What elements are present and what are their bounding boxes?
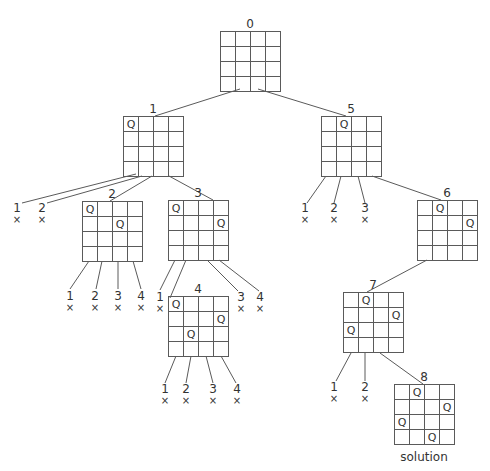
failed-branch: 4× xyxy=(221,356,241,406)
branch-label: 1 xyxy=(13,201,21,215)
queen-icon: Q xyxy=(443,401,452,414)
branch-line xyxy=(358,176,365,203)
failed-branch: 1× xyxy=(66,261,89,313)
fail-mark-icon: × xyxy=(209,395,217,406)
branch-line xyxy=(160,260,175,290)
branch-label: 3 xyxy=(114,289,122,303)
branch-line xyxy=(47,176,142,203)
queen-icon: Q xyxy=(347,324,356,337)
branch-label: 3 xyxy=(361,201,369,215)
node-label: 8 xyxy=(420,370,428,384)
solution-caption: solution xyxy=(400,450,448,464)
fail-mark-icon: × xyxy=(361,393,369,404)
branch-line xyxy=(165,356,176,383)
fail-mark-icon: × xyxy=(256,303,264,314)
failed-branch: 1× xyxy=(161,356,176,406)
fail-mark-icon: × xyxy=(161,395,169,406)
node-label: 0 xyxy=(246,17,254,31)
node-label: 2 xyxy=(108,187,116,201)
board-node-5: 5Q xyxy=(322,102,382,177)
branch-line xyxy=(186,356,191,383)
failed-branch: 4× xyxy=(133,261,145,313)
branch-label: 4 xyxy=(256,290,264,304)
fail-mark-icon: × xyxy=(361,214,369,225)
chess-board-grid xyxy=(344,293,404,353)
branch-line xyxy=(219,260,259,291)
branch-label: 2 xyxy=(91,289,99,303)
branch-line xyxy=(70,261,89,289)
chess-board-grid xyxy=(221,32,281,92)
fail-mark-icon: × xyxy=(114,302,122,313)
board-node-7: 7QQQ xyxy=(344,278,404,353)
failed-branch: 2× xyxy=(91,261,102,313)
branch-label: 2 xyxy=(182,382,190,396)
branch-label: 2 xyxy=(38,201,46,215)
tree-canvas: 1×2×1×2×3×4×1×3×4×1×2×3×4×1×2×3×1×2× 01Q… xyxy=(0,0,490,471)
fail-mark-icon: × xyxy=(66,302,74,313)
failed-branch: 2× xyxy=(182,356,191,406)
failed-branch: 2× xyxy=(330,176,341,225)
failed-branch: 3× xyxy=(207,260,245,314)
fail-mark-icon: × xyxy=(13,214,21,225)
branch-line xyxy=(336,353,351,381)
tree-edge-0-to-5 xyxy=(258,89,346,116)
search-tree-diagram: 1×2×1×2×3×4×1×3×4×1×2×3×4×1×2×3×1×2× 01Q… xyxy=(0,0,490,471)
queen-icon: Q xyxy=(362,294,371,307)
failed-branch: 3× xyxy=(114,261,122,313)
fail-mark-icon: × xyxy=(301,214,309,225)
board-node-2: 2QQ xyxy=(83,187,143,262)
fail-mark-icon: × xyxy=(156,303,164,314)
tree-edge-0-to-1 xyxy=(155,89,240,116)
branch-line xyxy=(221,356,236,383)
branch-label: 2 xyxy=(361,380,369,394)
failed-branches: 1×2×1×2×3×4×1×3×4×1×2×3×4×1×2×3×1×2× xyxy=(13,174,369,406)
node-label: 4 xyxy=(194,282,202,296)
queen-icon: Q xyxy=(340,118,349,131)
queen-icon: Q xyxy=(413,386,422,399)
queen-icon: Q xyxy=(217,217,226,230)
node-label: 7 xyxy=(369,278,377,292)
branch-label: 3 xyxy=(209,382,217,396)
board-node-4: 4QQQ xyxy=(169,282,229,357)
fail-mark-icon: × xyxy=(237,303,245,314)
board-node-1: 1Q xyxy=(124,102,184,177)
failed-branch: 2× xyxy=(361,353,369,404)
board-node-8: 8QQQQsolution xyxy=(395,370,455,464)
branch-line xyxy=(334,176,341,203)
branch-line xyxy=(206,356,213,383)
queen-icon: Q xyxy=(217,313,226,326)
branch-label: 1 xyxy=(156,290,164,304)
queen-icon: Q xyxy=(466,217,475,230)
node-label: 3 xyxy=(194,186,202,200)
chess-board-grid xyxy=(322,117,382,177)
branch-label: 1 xyxy=(161,382,169,396)
failed-branch: 1× xyxy=(330,353,351,404)
tree-edge-7-to-8 xyxy=(380,353,423,384)
fail-mark-icon: × xyxy=(330,393,338,404)
board-node-6: 6QQ xyxy=(418,186,478,261)
tree-edge-5-to-6 xyxy=(372,176,441,200)
failed-branch: 3× xyxy=(206,356,217,406)
queen-icon: Q xyxy=(392,309,401,322)
branch-line xyxy=(96,261,102,289)
branch-label: 1 xyxy=(330,380,338,394)
branch-line xyxy=(207,260,238,291)
fail-mark-icon: × xyxy=(38,214,46,225)
failed-branch: 2× xyxy=(38,176,142,225)
fail-mark-icon: × xyxy=(137,302,145,313)
tree-edges xyxy=(110,89,441,384)
queen-icon: Q xyxy=(172,298,181,311)
branch-line xyxy=(307,176,326,203)
queen-icon: Q xyxy=(436,202,445,215)
queen-icon: Q xyxy=(86,203,95,216)
branch-line xyxy=(133,261,141,289)
branch-line xyxy=(22,174,136,203)
tree-edge-1-to-3 xyxy=(169,176,213,200)
branch-label: 4 xyxy=(137,289,145,303)
queen-icon: Q xyxy=(398,416,407,429)
fail-mark-icon: × xyxy=(91,302,99,313)
queen-icon: Q xyxy=(127,118,136,131)
branch-label: 3 xyxy=(237,290,245,304)
board-node-3: 3QQ xyxy=(169,186,229,261)
failed-branch: 1× xyxy=(301,176,326,225)
